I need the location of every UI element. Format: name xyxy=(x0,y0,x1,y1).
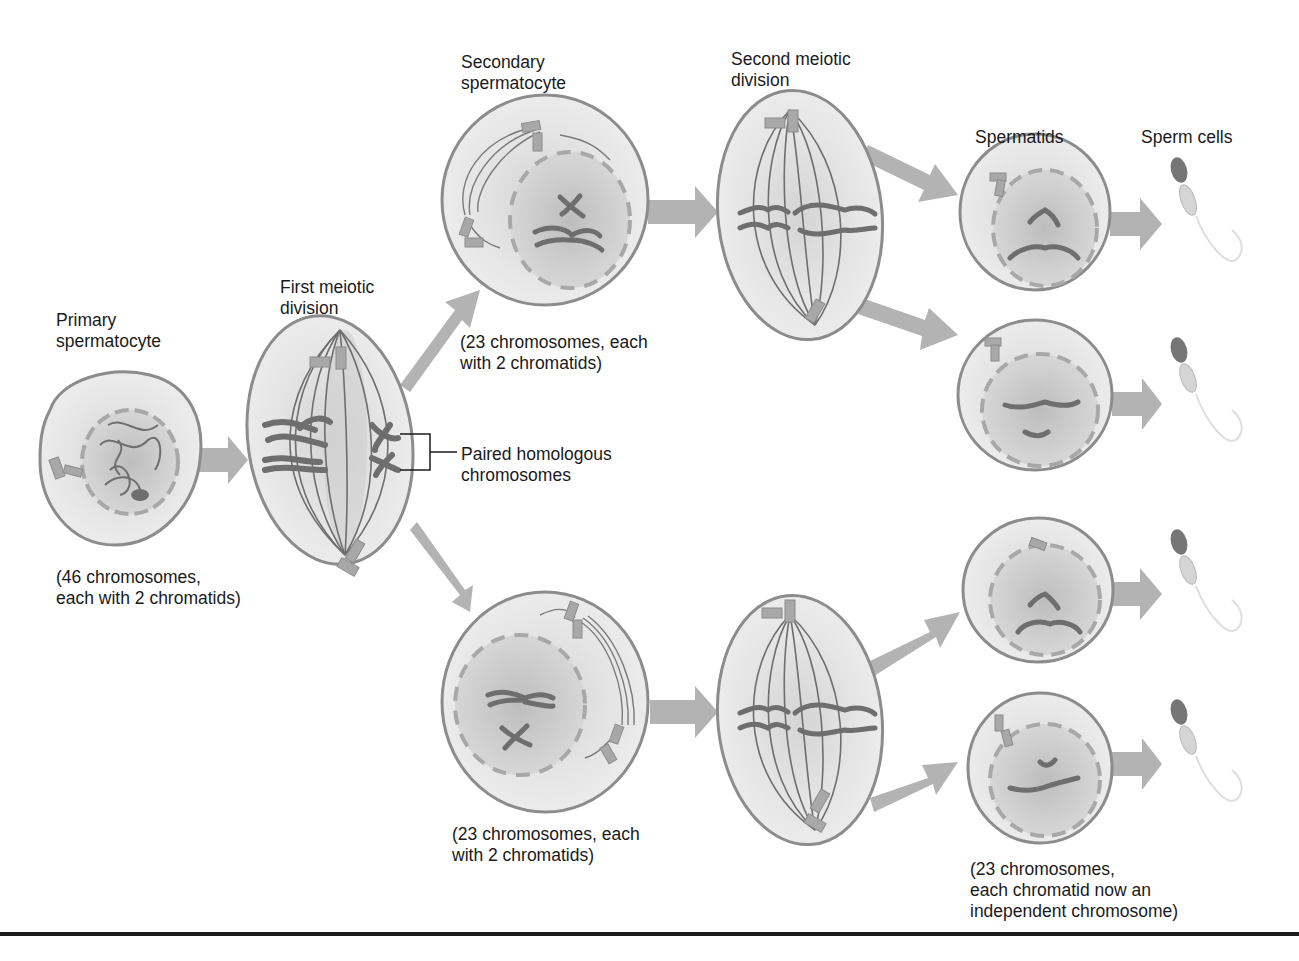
arrow-second-top-to-spermatid2 xyxy=(858,298,958,350)
arrow-spermatid2-to-sperm xyxy=(1112,378,1162,430)
secondary-bottom-note: (23 chromosomes, each with 2 chromatids) xyxy=(452,824,640,866)
arrow-spermatid3-to-sperm xyxy=(1110,568,1162,620)
paired-homologous-label: Paired homologous chromosomes xyxy=(461,444,612,486)
arrow-spermatid4-to-sperm xyxy=(1112,738,1162,790)
secondary-top-note: (23 chromosomes, each with 2 chromatids) xyxy=(460,332,648,374)
second-division-label: Second meiotic division xyxy=(731,49,851,91)
spermatid-1 xyxy=(960,134,1110,290)
sperm-cell-4 xyxy=(1168,697,1242,801)
first-division-label: First meiotic division xyxy=(280,277,374,319)
first-division-cell xyxy=(231,305,428,577)
primary-spermatocyte-label: Primary spermatocyte xyxy=(56,310,161,352)
arrow-secondary-bottom-to-second xyxy=(650,686,718,738)
secondary-spermatocyte-bottom-cell xyxy=(442,592,648,812)
sperm-cells-label: Sperm cells xyxy=(1141,127,1232,148)
sperm-cell-2 xyxy=(1168,335,1242,441)
sperm-cell-3 xyxy=(1168,527,1242,631)
secondary-spermatocyte-top-cell xyxy=(442,95,648,305)
primary-spermatocyte-cell xyxy=(40,372,201,545)
sperm-cell-1 xyxy=(1168,155,1242,261)
arrow-second-bottom-to-spermatid4 xyxy=(870,762,958,812)
meiosis-diagram xyxy=(0,0,1299,961)
arrow-secondary-top-to-second xyxy=(648,186,718,238)
second-division-bottom-cell xyxy=(705,587,894,853)
spermatids-label: Spermatids xyxy=(975,127,1064,148)
secondary-spermatocyte-label: Secondary spermatocyte xyxy=(461,52,566,94)
spermatids-note: (23 chromosomes, each chromatid now an i… xyxy=(970,859,1178,922)
spermatid-3 xyxy=(963,518,1113,662)
spermatid-4 xyxy=(968,693,1112,843)
bottom-divider-rule xyxy=(0,932,1299,936)
primary-spermatocyte-note: (46 chromosomes, each with 2 chromatids) xyxy=(56,567,241,609)
arrow-primary-to-first xyxy=(198,436,248,484)
arrow-second-bottom-to-spermatid3 xyxy=(868,612,960,676)
arrow-first-to-secondary-bottom xyxy=(410,522,473,612)
spermatid-2 xyxy=(958,320,1112,470)
arrow-spermatid1-to-sperm xyxy=(1110,198,1162,250)
